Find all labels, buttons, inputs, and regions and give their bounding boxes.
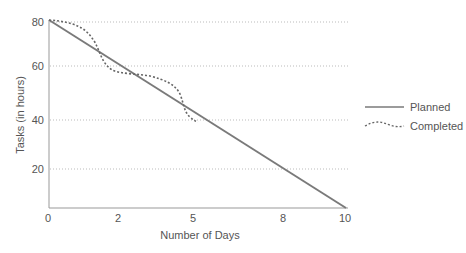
x-tick-2: 2 <box>115 212 121 224</box>
legend-planned-label: Planned <box>410 101 450 113</box>
gridlines <box>50 22 348 169</box>
y-axis-title: Tasks (in hours) <box>14 76 26 154</box>
x-tick-10: 10 <box>339 212 351 224</box>
x-tick-8: 8 <box>280 212 286 224</box>
legend-completed-label: Completed <box>410 120 463 132</box>
y-tick-20: 20 <box>32 163 44 175</box>
x-tick-5: 5 <box>190 212 196 224</box>
y-tick-40: 40 <box>32 114 44 126</box>
legend-completed-swatch <box>365 122 404 127</box>
y-tick-80: 80 <box>32 16 44 28</box>
burndown-chart: 80 60 40 20 0 2 5 8 10 Number of Days Ta… <box>0 0 466 253</box>
x-axis-title: Number of Days <box>160 229 240 241</box>
x-tick-0: 0 <box>45 212 51 224</box>
planned-line <box>49 20 346 208</box>
y-tick-60: 60 <box>32 60 44 72</box>
legend: Planned Completed <box>365 101 463 132</box>
